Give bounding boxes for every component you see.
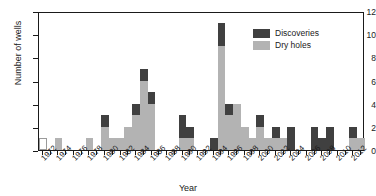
bar-1980 <box>101 115 109 150</box>
bar-1996 <box>225 104 233 150</box>
bar-segment-discoveries-1991 <box>186 127 194 139</box>
bar-segment-discoveries-1986 <box>148 92 156 104</box>
bar-1986 <box>148 92 156 150</box>
x-tick-mark-1973 <box>50 151 51 155</box>
x-tick-mark-1995 <box>220 151 221 155</box>
x-tick-mark-2009 <box>329 151 330 155</box>
chart-legend: Discoveries Dry holes <box>253 28 319 52</box>
bar-segment-dry-holes-1984 <box>132 115 140 150</box>
x-tick-mark-1981 <box>112 151 113 155</box>
x-tick-mark-2013 <box>360 151 361 155</box>
bar-1990 <box>179 115 187 150</box>
x-tick-mark-1999 <box>251 151 252 155</box>
legend-swatch-dry-holes <box>253 41 270 50</box>
y-axis-title: Number of wells <box>13 0 23 113</box>
bar-1985 <box>140 69 148 150</box>
chart-container: Number of wells 024681012 19721974197619… <box>0 0 376 196</box>
x-tick-mark-1993 <box>205 151 206 155</box>
x-tick-mark-1985 <box>143 151 144 155</box>
bar-segment-dry-holes-1995 <box>218 46 226 150</box>
legend-item-discoveries: Discoveries <box>253 28 319 39</box>
legend-swatch-discoveries <box>253 29 270 38</box>
x-tick-mark-1977 <box>81 151 82 155</box>
legend-item-dry-holes: Dry holes <box>253 40 319 51</box>
x-tick-mark-1987 <box>158 151 159 155</box>
x-tick-mark-2011 <box>345 151 346 155</box>
bar-segment-discoveries-2002 <box>272 127 280 139</box>
bar-segment-discoveries-1984 <box>132 104 140 116</box>
bar-segment-discoveries-1985 <box>140 69 148 81</box>
bar-segment-discoveries-1995 <box>218 23 226 46</box>
bar-1984 <box>132 104 140 150</box>
x-axis-title: Year <box>0 183 376 193</box>
bar-segment-dry-holes-1980 <box>101 127 109 150</box>
legend-label-dry-holes: Dry holes <box>275 41 311 50</box>
bar-segment-discoveries-1990 <box>179 115 187 138</box>
bar-2002 <box>272 127 280 150</box>
bar-segment-dry-holes-1996 <box>225 115 233 150</box>
bar-segment-dry-holes-1986 <box>148 104 156 150</box>
bar-segment-discoveries-2012 <box>349 127 357 139</box>
bar-2000 <box>256 115 264 150</box>
x-tick-mark-2007 <box>314 151 315 155</box>
x-tick-mark-1991 <box>189 151 190 155</box>
x-tick-mark-2003 <box>283 151 284 155</box>
bar-segment-discoveries-2000 <box>256 115 264 127</box>
x-tick-mark-1989 <box>174 151 175 155</box>
x-tick-mark-1979 <box>96 151 97 155</box>
x-tick-mark-1997 <box>236 151 237 155</box>
bar-segment-discoveries-1996 <box>225 104 233 116</box>
x-tick-mark-2001 <box>267 151 268 155</box>
x-tick-mark-2005 <box>298 151 299 155</box>
bar-segment-discoveries-1980 <box>101 115 109 127</box>
bar-segment-dry-holes-1985 <box>140 81 148 151</box>
legend-label-discoveries: Discoveries <box>275 29 319 38</box>
x-tick-mark-1975 <box>65 151 66 155</box>
bar-1995 <box>218 23 226 150</box>
x-tick-mark-1983 <box>127 151 128 155</box>
y-tick-mark-0 <box>33 151 38 152</box>
